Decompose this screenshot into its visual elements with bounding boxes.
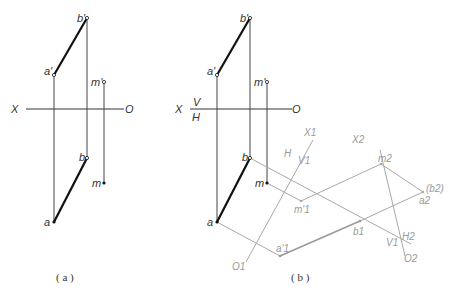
point-m-prime-b [265,80,268,83]
label-a-prime-b: a' [207,65,216,77]
label-m: m [92,177,101,189]
point-b [85,156,88,159]
axis-label-o-b: O [292,103,301,115]
segment-a-prime-b-prime-b [217,18,250,75]
plane-label-v: V [193,96,202,108]
segment-a-prime-b-prime [54,18,87,75]
label-a: a [44,216,50,228]
proj-m1-to-m2 [301,164,381,201]
point-m [102,181,105,184]
label-a-prime: a' [44,65,53,77]
aux-label-h: H [284,148,292,159]
aux-label-h2: H2 [402,231,415,242]
point-a2 [422,191,425,194]
label-m1: m'1 [294,204,310,215]
point-a-prime-b [215,73,218,76]
segment-a-b-b [217,158,250,222]
label-m-prime-b: m' [254,76,266,88]
label-b-b: b [242,151,248,163]
label-m-prime: m' [91,76,103,88]
aux-label-x1: X1 [303,127,316,138]
point-a1 [279,255,282,258]
label-b2: (b2) [426,183,444,194]
point-a-prime [52,73,55,76]
label-a-b: a [207,216,213,228]
point-m-prime [102,80,105,83]
proj-a-to-a1 [217,222,280,256]
aux-label-v1: V1 [298,155,310,166]
caption-b: ( b ) [291,271,310,284]
aux-label-v1-2: V1 [386,237,398,248]
point-m1 [300,200,303,203]
figure-a: X O b' a' m' b m a ( a ) [10,12,134,284]
projection-diagram: X O b' a' m' b m a ( a ) [0,0,453,297]
aux-label-x2: X2 [351,134,365,145]
axis-label-o: O [125,103,134,115]
proj-b-to-b1 [250,158,411,244]
point-a [52,220,55,223]
axis-label-x: X [10,103,19,115]
segment-a1-b1 [280,221,360,256]
label-a2: a2 [419,195,431,206]
label-m-b: m [255,177,264,189]
segment-m2-a2 [381,164,423,192]
plane-label-h: H [192,111,200,123]
label-b1: b1 [353,226,364,237]
label-b: b [79,151,85,163]
point-a-b [215,220,218,223]
label-b-prime-b: b' [240,12,249,24]
point-b1 [359,220,362,223]
aux-label-o2: O2 [404,253,418,264]
point-b-b [248,156,251,159]
label-b-prime: b' [77,12,86,24]
proj-b1-to-b2 [360,192,423,221]
figure-b: X O V H b' a' m' b m a X1 H V1 O1 m'1 a'… [174,12,444,284]
aux-label-o1: O1 [232,261,245,272]
proj-m-to-m1 [267,183,301,201]
caption-a: ( a ) [56,271,74,284]
label-a1: a'1 [276,243,289,254]
point-b-prime [85,16,88,19]
segment-a-b [54,158,87,222]
axis-label-x-b: X [174,103,183,115]
point-b-prime-b [248,16,251,19]
label-m2: m2 [378,153,392,164]
point-m-b [265,181,268,184]
